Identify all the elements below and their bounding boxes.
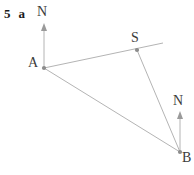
- bearings-diagram-svg: [0, 0, 194, 175]
- point-a-dot: [42, 66, 46, 70]
- figure-canvas: 5 a N N A S B: [0, 0, 194, 175]
- point-label-s: S: [131, 31, 139, 45]
- segment-a-to-b: [44, 68, 180, 152]
- north-label-a: N: [37, 5, 47, 19]
- north-arrowhead-b: [177, 111, 183, 119]
- point-s-dot: [135, 48, 139, 52]
- point-label-a: A: [28, 56, 38, 70]
- point-label-b: B: [182, 151, 191, 165]
- north-label-b: N: [173, 94, 183, 108]
- question-number-label: 5 a: [4, 7, 26, 20]
- north-arrowhead-a: [41, 23, 47, 31]
- segment-a-to-s-extended: [44, 43, 163, 68]
